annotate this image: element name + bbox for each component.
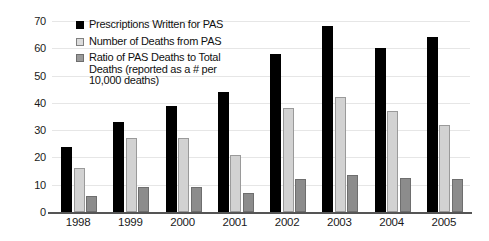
x-axis-tick-label: 1998 bbox=[66, 216, 91, 228]
bar-group-2005 bbox=[427, 21, 463, 212]
bar bbox=[347, 175, 358, 212]
y-axis-tick-label: 40 bbox=[34, 97, 46, 109]
bar bbox=[387, 111, 398, 212]
light-gray-square-icon bbox=[76, 38, 84, 46]
bar bbox=[427, 37, 438, 212]
y-axis-tick-label: 30 bbox=[34, 124, 46, 136]
x-axis-tick-label: 2004 bbox=[379, 216, 404, 228]
bar bbox=[113, 122, 124, 212]
x-axis-tick-label: 2003 bbox=[327, 216, 352, 228]
bar bbox=[295, 179, 306, 212]
legend-item-label: Number of Deaths from PAS bbox=[89, 36, 221, 48]
legend-item: Number of Deaths from PAS bbox=[76, 36, 326, 48]
bar bbox=[400, 178, 411, 212]
bar bbox=[191, 187, 202, 212]
legend-item: Ratio of PAS Deaths to Total Deaths (rep… bbox=[76, 52, 326, 87]
bar bbox=[138, 187, 149, 212]
bar bbox=[243, 193, 254, 212]
chart-legend: Prescriptions Written for PASNumber of D… bbox=[76, 19, 326, 92]
bar bbox=[439, 125, 450, 212]
bar bbox=[126, 138, 137, 212]
bar bbox=[452, 179, 463, 212]
bar bbox=[166, 106, 177, 212]
bar-group-2003 bbox=[322, 21, 358, 212]
x-axis-tick-label: 2005 bbox=[431, 216, 456, 228]
y-axis-tick-label: 60 bbox=[34, 42, 46, 54]
x-axis-tick-label: 1999 bbox=[118, 216, 143, 228]
bar bbox=[86, 196, 97, 212]
black-square-icon bbox=[76, 21, 84, 29]
bar bbox=[230, 155, 241, 212]
y-axis-tick-label: 70 bbox=[34, 15, 46, 27]
y-axis-tick-label: 20 bbox=[34, 151, 46, 163]
x-axis-tick-label: 2002 bbox=[275, 216, 300, 228]
bar bbox=[335, 97, 346, 212]
bar-chart: 010203040506070 Prescriptions Written fo… bbox=[0, 0, 489, 241]
bar bbox=[375, 48, 386, 212]
bar bbox=[218, 92, 229, 212]
y-axis: 010203040506070 bbox=[0, 0, 46, 241]
legend-item: Prescriptions Written for PAS bbox=[76, 19, 326, 31]
y-axis-tick-label: 0 bbox=[40, 206, 46, 218]
bar-group-2004 bbox=[375, 21, 411, 212]
legend-item-label: Ratio of PAS Deaths to Total Deaths (rep… bbox=[89, 52, 220, 87]
gray-square-icon bbox=[76, 54, 84, 62]
x-axis-line bbox=[48, 212, 472, 214]
bar bbox=[74, 168, 85, 212]
legend-item-label: Prescriptions Written for PAS bbox=[89, 19, 223, 31]
x-axis-tick-label: 2001 bbox=[222, 216, 247, 228]
bar bbox=[283, 108, 294, 212]
y-axis-tick-label: 10 bbox=[34, 179, 46, 191]
y-axis-tick-label: 50 bbox=[34, 70, 46, 82]
bar bbox=[178, 138, 189, 212]
bar bbox=[61, 147, 72, 212]
x-axis-tick-label: 2000 bbox=[170, 216, 195, 228]
